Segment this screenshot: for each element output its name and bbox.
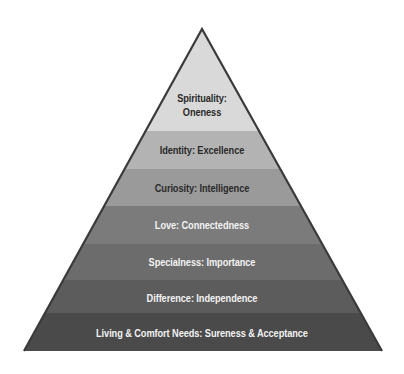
level-1-label-line1: Spirituality: (24, 91, 380, 105)
level-1-label: Spirituality: Oneness (24, 91, 380, 119)
level-4-label: Love: Connectedness (24, 218, 380, 232)
level-2-label: Identity: Excellence (24, 143, 380, 157)
level-6-label: Difference: Independence (24, 291, 380, 305)
level-1-label-line2: Oneness (24, 105, 380, 119)
level-5-label: Specialness: Importance (24, 255, 380, 269)
pyramid-diagram: Spirituality: Oneness Identity: Excellen… (0, 0, 404, 374)
level-7-label: Living & Comfort Needs: Sureness & Accep… (24, 326, 380, 340)
level-3-label: Curiosity: Intelligence (24, 181, 380, 195)
